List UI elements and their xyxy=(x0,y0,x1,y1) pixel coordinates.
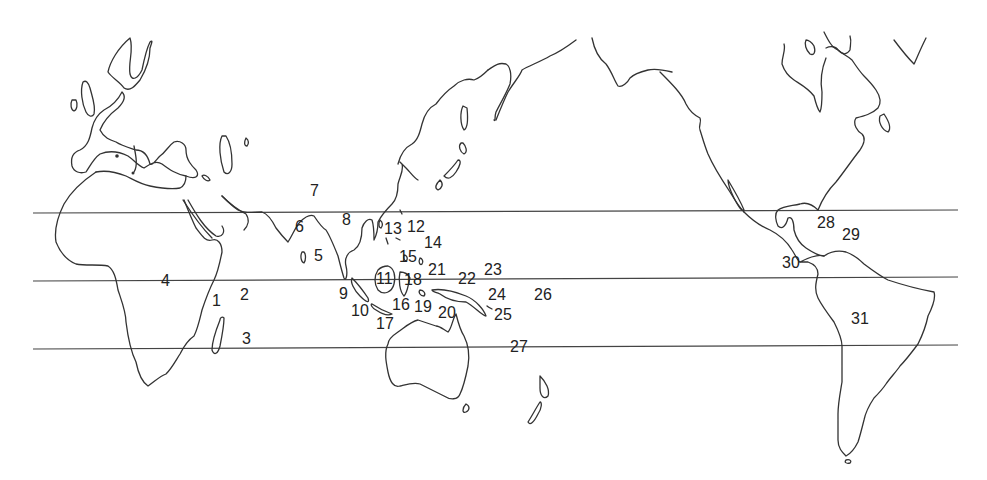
label-15: 15 xyxy=(399,248,417,265)
label-10: 10 xyxy=(351,302,369,319)
label-18: 18 xyxy=(404,271,422,288)
label-19: 19 xyxy=(414,298,432,315)
label-3: 3 xyxy=(242,330,251,347)
australia-coastline xyxy=(386,314,549,424)
label-28: 28 xyxy=(817,214,835,231)
label-14: 14 xyxy=(424,234,442,251)
europe-coastline xyxy=(71,38,248,181)
label-1: 1 xyxy=(212,292,221,309)
label-31: 31 xyxy=(851,310,869,327)
africa-coastline xyxy=(55,171,248,386)
label-7: 7 xyxy=(310,182,319,199)
label-26: 26 xyxy=(534,286,552,303)
label-20: 20 xyxy=(438,304,456,321)
label-29: 29 xyxy=(842,226,860,243)
tropic-of-cancer-line xyxy=(33,210,958,213)
north-america-coastline xyxy=(592,32,926,262)
label-12: 12 xyxy=(407,218,425,235)
label-23: 23 xyxy=(484,261,502,278)
label-9: 9 xyxy=(339,285,348,302)
label-22: 22 xyxy=(458,270,476,287)
label-27: 27 xyxy=(510,338,528,355)
label-8: 8 xyxy=(342,211,351,228)
label-13: 13 xyxy=(384,220,402,237)
label-24: 24 xyxy=(488,286,506,303)
label-25: 25 xyxy=(494,306,512,323)
label-2: 2 xyxy=(240,286,249,303)
label-5: 5 xyxy=(314,247,323,264)
asia-coastline xyxy=(222,40,576,279)
label-16: 16 xyxy=(392,296,410,313)
south-america-coastline xyxy=(800,251,935,463)
label-21: 21 xyxy=(428,261,446,278)
label-11: 11 xyxy=(376,270,393,287)
world-map: 1 2 3 4 5 6 7 8 9 10 11 12 13 14 15 16 1… xyxy=(0,0,987,480)
label-30: 30 xyxy=(782,254,800,271)
label-4: 4 xyxy=(161,272,170,289)
label-17: 17 xyxy=(376,315,394,332)
location-labels: 1 2 3 4 5 6 7 8 9 10 11 12 13 14 15 16 1… xyxy=(161,182,869,355)
tropic-of-capricorn-line xyxy=(33,345,958,349)
label-6: 6 xyxy=(295,218,304,235)
